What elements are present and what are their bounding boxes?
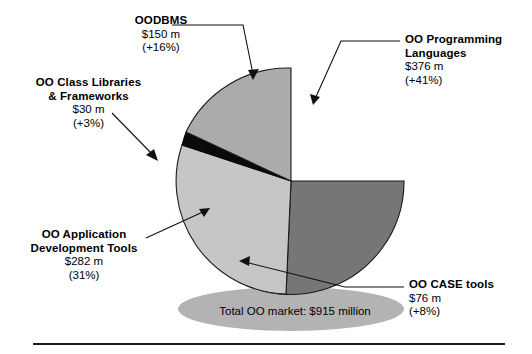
callout-class-libraries-growth: (+3%) (6, 117, 171, 131)
callout-oo-class-libraries-frameworks: OO Class Libraries & Frameworks $30 m (+… (6, 76, 171, 130)
callout-case-tools-growth: (+8%) (409, 305, 529, 319)
callout-oodbms-value: $150 m (96, 28, 226, 42)
callout-oodbms-growth: (+16%) (96, 41, 226, 55)
pie-slices (176, 68, 404, 294)
callout-class-libraries-value: $30 m (6, 103, 171, 117)
callout-app-dev-tools-title-line1: OO Application (8, 228, 160, 242)
arrowhead-oo-class-libraries (146, 149, 158, 161)
callout-class-libraries-title-line1: OO Class Libraries (6, 76, 171, 90)
callout-programming-languages-title-line2: Languages (405, 47, 530, 61)
callout-oo-application-development-tools: OO Application Development Tools $282 m … (8, 228, 160, 282)
callout-programming-languages-growth: (+41%) (405, 74, 530, 88)
leader-line-oo-programming-languages (315, 41, 400, 99)
callout-oo-case-tools: OO CASE tools $76 m (+8%) (409, 278, 529, 319)
callout-case-tools-value: $76 m (409, 292, 529, 306)
callout-programming-languages-title-line1: OO Programming (405, 33, 530, 47)
callout-app-dev-tools-growth: (31%) (8, 269, 160, 283)
arrowhead-oo-programming-languages (310, 94, 320, 105)
callout-case-tools-title: OO CASE tools (409, 278, 529, 292)
callout-oo-programming-languages: OO Programming Languages $376 m (+41%) (405, 33, 530, 87)
callout-oodbms-title: OODBMS (96, 14, 226, 28)
callout-app-dev-tools-title-line2: Development Tools (8, 242, 160, 256)
pie-chart-figure: OODBMS $150 m (+16%) OO Class Libraries … (0, 0, 532, 354)
callout-app-dev-tools-value: $282 m (8, 255, 160, 269)
callout-oodbms: OODBMS $150 m (+16%) (96, 14, 226, 55)
callout-class-libraries-title-line2: & Frameworks (6, 90, 171, 104)
total-market-caption: Total OO market: $915 million (200, 305, 390, 317)
callout-programming-languages-value: $376 m (405, 60, 530, 74)
